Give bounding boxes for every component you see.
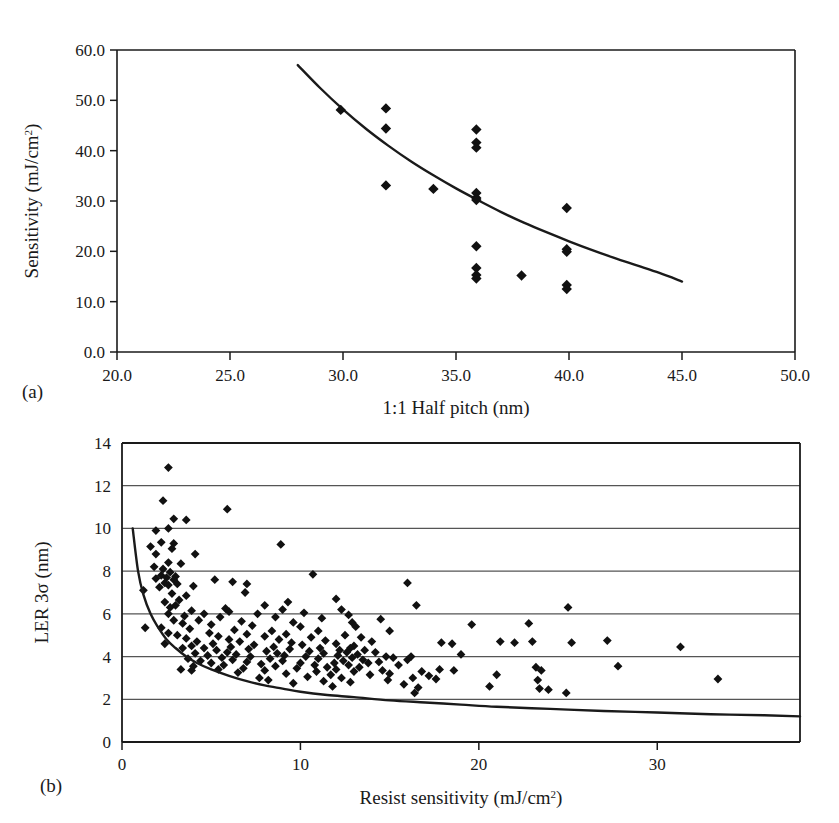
data-point <box>278 605 287 614</box>
data-point <box>319 677 328 686</box>
panel-a-xtick-label: 20.0 <box>102 366 132 385</box>
data-point <box>169 514 178 523</box>
data-point <box>191 550 200 559</box>
data-point <box>544 685 553 694</box>
yaxis-title-tail: ) <box>21 124 43 130</box>
data-point <box>164 558 173 567</box>
data-point <box>289 679 298 688</box>
data-point <box>394 661 403 670</box>
data-point <box>285 645 294 654</box>
data-point <box>207 659 216 668</box>
data-point <box>328 682 337 691</box>
data-point <box>435 665 444 674</box>
data-point <box>403 578 412 587</box>
panel-a-xtick-label: 35.0 <box>441 366 471 385</box>
data-point <box>312 667 321 676</box>
data-point <box>332 665 341 674</box>
panel-a-ytick-label: 30.0 <box>75 192 105 211</box>
data-point <box>152 526 161 535</box>
data-point <box>400 680 409 689</box>
panel-a-yaxis-title: Sensitivity (mJ/cm2) <box>21 124 43 279</box>
data-point <box>159 496 168 505</box>
data-point <box>337 674 346 683</box>
data-point <box>242 630 251 639</box>
panel-b-ytick-label: 8 <box>103 562 112 581</box>
data-point <box>141 623 150 632</box>
data-point <box>448 639 457 648</box>
panel-a-xtick-label: 45.0 <box>667 366 697 385</box>
data-point <box>614 662 623 671</box>
data-point <box>200 644 209 653</box>
data-point <box>255 674 264 683</box>
data-point <box>471 124 481 134</box>
data-point <box>205 629 214 638</box>
data-point <box>157 538 166 547</box>
panel-a-xtick-label: 25.0 <box>215 366 245 385</box>
data-point <box>382 652 391 661</box>
data-point <box>298 640 307 649</box>
data-point <box>289 618 298 627</box>
data-point <box>200 609 209 618</box>
data-point <box>178 619 187 628</box>
data-point <box>428 184 438 194</box>
data-point <box>344 611 353 620</box>
data-point <box>189 582 198 591</box>
data-point <box>332 595 341 604</box>
data-point <box>323 663 332 672</box>
panel-a-ytick-label: 40.0 <box>75 142 105 161</box>
data-point <box>207 620 216 629</box>
data-point <box>168 589 177 598</box>
data-point <box>412 601 421 610</box>
data-point <box>381 180 391 190</box>
panel-b-xaxis-title: Resist sensitivity (mJ/cm2) <box>360 787 563 809</box>
data-point <box>182 634 191 643</box>
data-point <box>330 659 339 668</box>
data-point <box>146 542 155 551</box>
panel-b-tag: (b) <box>40 775 62 797</box>
panel-b-yaxis-title: LER 3σ (nm) <box>31 541 53 643</box>
data-point <box>303 672 312 681</box>
data-point <box>381 103 391 113</box>
data-point <box>366 670 375 679</box>
data-point <box>408 674 417 683</box>
panel-b-trend-curve <box>133 528 800 716</box>
data-point <box>194 616 203 625</box>
data-point <box>230 625 239 634</box>
data-point <box>180 612 189 621</box>
data-point <box>357 633 366 642</box>
data-point <box>317 614 326 623</box>
data-point <box>471 241 481 251</box>
data-point <box>169 616 178 625</box>
data-point <box>176 559 185 568</box>
data-point <box>437 638 446 647</box>
data-point <box>164 463 173 472</box>
data-point <box>524 619 533 628</box>
data-point <box>457 650 466 659</box>
data-point <box>253 609 262 618</box>
panel-b-plot: 024681012140102030Resist sensitivity (mJ… <box>0 400 839 823</box>
data-point <box>492 670 501 679</box>
data-point <box>516 270 526 280</box>
panel-b-xtick-label: 0 <box>118 755 127 774</box>
data-point <box>533 676 542 685</box>
data-point <box>603 636 612 645</box>
data-point <box>296 622 305 631</box>
data-point <box>314 627 323 636</box>
panel-b-points <box>139 463 722 697</box>
panel-b-xtick-label: 20 <box>470 755 487 774</box>
data-point <box>300 608 309 617</box>
data-point <box>485 682 494 691</box>
data-point <box>160 598 169 607</box>
data-point <box>449 666 458 675</box>
panel-a-ytick-label: 10.0 <box>75 293 105 312</box>
data-point <box>336 105 346 115</box>
data-point <box>510 638 519 647</box>
panel-a-ytick-label: 60.0 <box>75 41 105 60</box>
data-point <box>276 540 285 549</box>
data-point <box>307 633 316 642</box>
panel-b-ytick-label: 6 <box>103 605 112 624</box>
panel-a-ytick-label: 50.0 <box>75 91 105 110</box>
data-point <box>282 630 291 639</box>
data-point <box>266 654 275 663</box>
data-point <box>185 624 194 633</box>
